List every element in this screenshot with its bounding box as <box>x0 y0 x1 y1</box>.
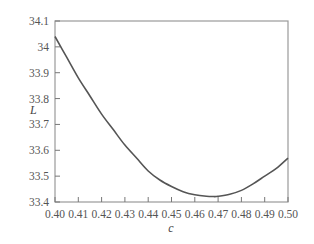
x-tick-label: 0.44 <box>138 208 158 220</box>
x-tick-label: 0.47 <box>208 208 228 220</box>
x-tick-label: 0.45 <box>161 208 181 220</box>
data-line-L <box>55 37 288 197</box>
x-tick-label: 0.40 <box>45 208 65 220</box>
x-tick-label: 0.50 <box>278 208 298 220</box>
y-tick-label: 33.4 <box>29 196 49 208</box>
x-axis-label: c <box>168 221 174 235</box>
x-tick-label: 0.48 <box>231 208 251 220</box>
plot-frame <box>55 21 288 202</box>
y-tick-label: 33.5 <box>29 170 49 182</box>
y-tick-label: 34 <box>38 41 50 53</box>
y-tick-label: 34.1 <box>29 15 49 27</box>
x-axis: 0.400.410.420.430.440.450.460.470.480.49… <box>45 197 298 220</box>
y-tick-label: 33.6 <box>29 144 49 156</box>
y-tick-label: 33.7 <box>29 118 49 130</box>
plot-border <box>55 21 288 202</box>
x-tick-label: 0.46 <box>185 208 205 220</box>
y-axis-label: L <box>29 103 37 117</box>
line-chart: 33.433.533.633.733.833.93434.1 0.400.410… <box>0 0 314 244</box>
x-tick-label: 0.49 <box>255 208 275 220</box>
x-tick-label: 0.42 <box>92 208 112 220</box>
y-tick-label: 33.9 <box>29 67 49 79</box>
x-tick-label: 0.41 <box>68 208 88 220</box>
x-tick-label: 0.43 <box>115 208 135 220</box>
